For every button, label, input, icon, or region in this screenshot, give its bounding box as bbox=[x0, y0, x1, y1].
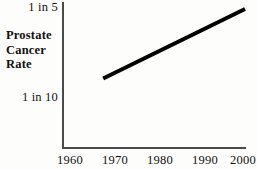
plot-area bbox=[0, 0, 257, 170]
x-axis-tick-label-1960: 1960 bbox=[47, 153, 93, 167]
prostate-cancer-rate-chart: 1 in 5 1 in 10 Prostate Cancer Rate 1960… bbox=[0, 0, 257, 170]
x-axis-tick-label-2000: 2000 bbox=[220, 153, 257, 167]
data-line-prostate-cancer-rate bbox=[103, 9, 245, 79]
x-axis-tick-label-1970: 1970 bbox=[92, 153, 138, 167]
x-axis-tick-label-1980: 1980 bbox=[137, 153, 183, 167]
